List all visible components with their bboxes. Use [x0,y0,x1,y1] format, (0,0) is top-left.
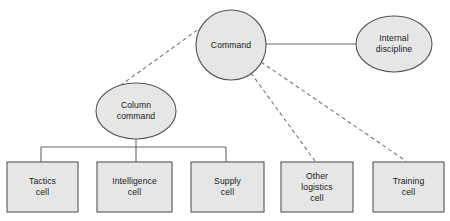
node-shape-intelligence-cell[interactable] [97,162,172,212]
node-shape-command[interactable] [196,10,266,80]
diagram-vector-layer [0,0,450,221]
node-shape-training-cell[interactable] [373,162,444,212]
node-shape-column-command[interactable] [96,83,176,139]
node-shape-internal-discipline[interactable] [356,16,432,72]
edge-command-to-column-command [121,26,203,85]
edge-command-to-training-cell [261,62,406,161]
diagram-canvas: Command Internal discipline Column comma… [0,0,450,221]
node-shape-supply-cell[interactable] [191,162,264,212]
node-shape-layer [7,10,444,212]
node-shape-tactics-cell[interactable] [7,162,78,212]
edge-command-to-other-logistics-cell [251,73,315,161]
node-shape-other-logistics-cell[interactable] [281,162,353,212]
